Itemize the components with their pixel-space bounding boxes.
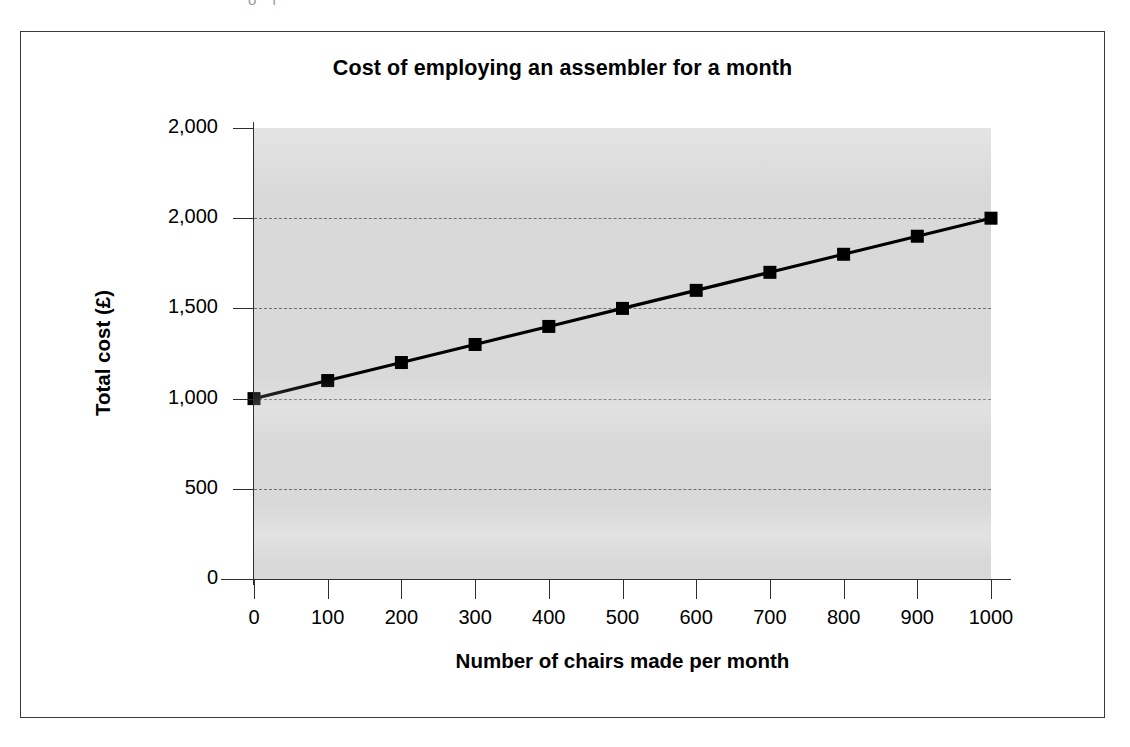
x-axis-tick: [401, 579, 402, 599]
x-axis-tick: [917, 579, 918, 599]
y-tick-label: 0: [207, 566, 218, 589]
data-point-marker: [690, 284, 703, 297]
x-axis-title: Number of chairs made per month: [254, 649, 991, 673]
x-tick-label: 200: [385, 606, 418, 629]
y-tick-mark: [233, 308, 253, 309]
x-tick-label: 700: [753, 606, 786, 629]
y-axis-title: Total cost (£): [91, 290, 115, 416]
x-tick-label: 1000: [969, 606, 1014, 629]
gridline: [254, 399, 991, 400]
data-point-marker: [911, 230, 924, 243]
x-axis-tick: [623, 579, 624, 599]
gridline: [254, 218, 991, 219]
data-point-marker: [321, 374, 334, 387]
x-axis-line: [221, 579, 1011, 580]
data-point-marker: [469, 338, 482, 351]
x-tick-label: 500: [606, 606, 639, 629]
gridline: [254, 489, 991, 490]
x-axis-tick: [254, 579, 255, 599]
y-axis-line: [253, 122, 254, 585]
y-tick-mark: [233, 128, 253, 129]
x-axis-tick: [475, 579, 476, 599]
y-tick-mark: [233, 579, 253, 580]
x-axis-tick: [549, 579, 550, 599]
data-point-marker: [837, 248, 850, 261]
x-tick-label: 900: [901, 606, 934, 629]
x-axis-tick: [844, 579, 845, 599]
x-axis-tick: [696, 579, 697, 599]
x-tick-label: 600: [680, 606, 713, 629]
x-tick-label: 300: [458, 606, 491, 629]
data-series-line: [254, 128, 991, 579]
gridline: [254, 308, 991, 309]
chart-area: Cost of employing an assembler for a mon…: [21, 32, 1104, 717]
data-point-marker: [763, 266, 776, 279]
y-tick-mark: [233, 489, 253, 490]
y-tick-label: 2,000: [168, 205, 218, 228]
x-tick-label: 800: [827, 606, 860, 629]
y-tick-label: 1,500: [168, 295, 218, 318]
x-tick-label: 400: [532, 606, 565, 629]
y-tick-label: 1,000: [168, 386, 218, 409]
x-tick-label: 100: [311, 606, 344, 629]
figure-frame: Cost of employing an assembler for a mon…: [20, 31, 1105, 718]
y-tick-mark: [233, 218, 253, 219]
x-tick-label: 0: [248, 606, 259, 629]
y-tick-label: 500: [185, 476, 218, 499]
x-axis-tick: [770, 579, 771, 599]
cut-off-caption-text: o l: [248, 0, 282, 8]
x-axis-tick: [328, 579, 329, 599]
data-point-marker: [542, 320, 555, 333]
y-tick-mark: [233, 399, 253, 400]
y-tick-label: 2,000: [168, 115, 218, 138]
data-point-marker: [395, 356, 408, 369]
plot-region: [254, 128, 991, 579]
x-axis-tick: [991, 579, 992, 599]
chart-title: Cost of employing an assembler for a mon…: [21, 56, 1104, 81]
